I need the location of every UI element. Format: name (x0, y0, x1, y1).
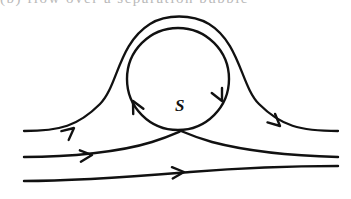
streamline-figure: (b) flow over a separation bubble S (0, 0, 351, 199)
saddle-point-label: S (175, 97, 184, 114)
arrowhead-middle-streamline (80, 150, 92, 161)
arrowhead-separatrix-left (61, 128, 74, 140)
arrowheads-group (61, 88, 280, 179)
arrowhead-vortex-right (212, 88, 222, 101)
